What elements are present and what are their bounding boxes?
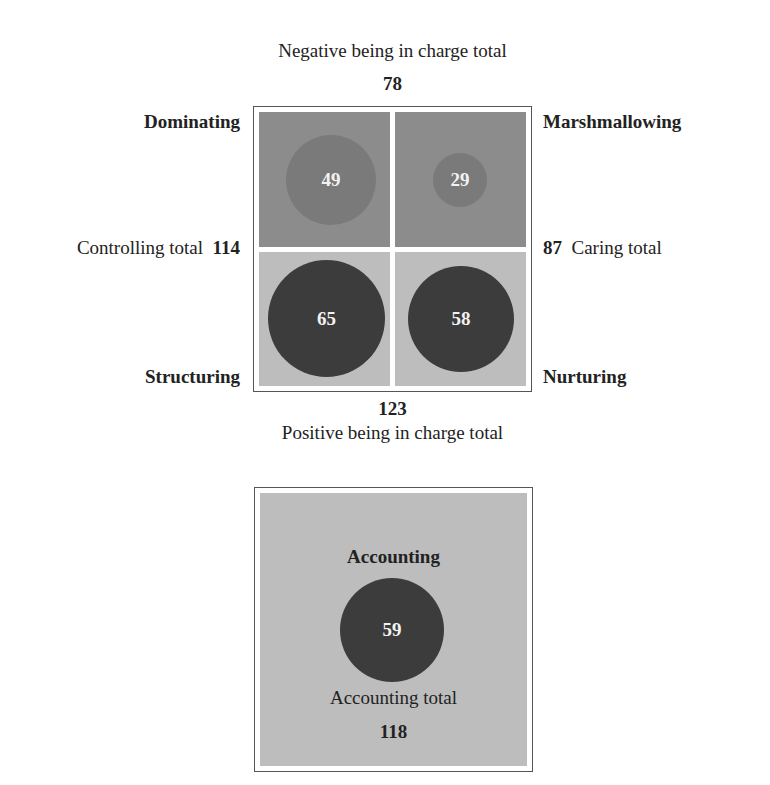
accounting-panel: Accounting 59 Accounting total 118: [260, 493, 527, 766]
quadrant-structuring: 65: [259, 252, 390, 386]
bubble-value-nurturing: 58: [452, 308, 471, 330]
bubble-nurturing: 58: [408, 266, 514, 372]
quadrant-label-dominating: Dominating: [144, 111, 240, 133]
quadrant-label-structuring: Structuring: [145, 366, 240, 388]
caring-total: 87 Caring total: [543, 237, 662, 259]
quadrant-label-marshmallowing: Marshmallowing: [543, 111, 681, 133]
bubble-value-accounting: 59: [383, 619, 402, 641]
accounting-title: Accounting: [260, 546, 527, 568]
bubble-value-dominating: 49: [322, 169, 341, 191]
caring-total-value: 87: [543, 237, 562, 258]
accounting-total-value: 118: [260, 721, 527, 743]
controlling-total: Controlling total 114: [77, 237, 240, 259]
quadrant-nurturing: 58: [395, 252, 526, 386]
negative-total-value: 78: [0, 73, 770, 95]
caring-total-caption: Caring total: [572, 237, 662, 258]
bubble-accounting: 59: [340, 578, 444, 682]
negative-total-caption: Negative being in charge total: [0, 40, 770, 62]
controlling-total-value: 114: [213, 237, 240, 258]
quadrant-dominating: 49: [259, 112, 390, 247]
accounting-total-caption: Accounting total: [260, 687, 527, 709]
positive-total-value: 123: [0, 398, 770, 420]
bubble-dominating: 49: [286, 135, 376, 225]
bubble-value-marshmallowing: 29: [451, 169, 470, 191]
accounting-frame: Accounting 59 Accounting total 118: [254, 487, 533, 772]
quadrant-frame: 49 29 65 58: [253, 106, 532, 392]
bubble-value-structuring: 65: [317, 308, 336, 330]
bubble-structuring: 65: [268, 260, 385, 377]
quadrant-marshmallowing: 29: [395, 112, 526, 247]
bubble-marshmallowing: 29: [433, 153, 487, 207]
quadrant-label-nurturing: Nurturing: [543, 366, 626, 388]
positive-total-caption: Positive being in charge total: [0, 422, 770, 444]
controlling-total-caption: Controlling total: [77, 237, 203, 258]
